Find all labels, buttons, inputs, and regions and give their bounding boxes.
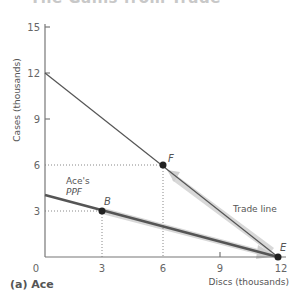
- label-e: E: [280, 242, 287, 253]
- trade-line-label: Trade line: [232, 204, 277, 214]
- point-f: [160, 162, 167, 169]
- label-b: B: [104, 196, 111, 207]
- y-axis-label: Cases (thousands): [12, 58, 22, 141]
- y-tick-15: 15: [27, 22, 40, 33]
- y-tick-3: 3: [34, 206, 40, 217]
- panel-label: (a) Ace: [10, 278, 54, 291]
- x-axis-label: Discs (thousands): [209, 277, 289, 287]
- point-b: [99, 208, 106, 215]
- x-tick-9: 9: [217, 263, 223, 274]
- axes: [45, 24, 286, 257]
- y-tick-9: 9: [34, 114, 40, 125]
- point-e: [275, 254, 282, 261]
- ppf-label-2: PPF: [66, 187, 83, 197]
- chart: B F E Ace's PPF Trade line 15 12 9 6 3 0…: [0, 0, 302, 302]
- x-tick-0: 0: [33, 263, 39, 274]
- y-tick-6: 6: [34, 160, 40, 171]
- x-tick-6: 6: [160, 263, 166, 274]
- ppf-label-1: Ace's: [66, 176, 90, 186]
- x-tick-12: 12: [275, 263, 288, 274]
- y-tick-12: 12: [27, 68, 40, 79]
- x-tick-3: 3: [99, 263, 105, 274]
- label-f: F: [168, 153, 174, 164]
